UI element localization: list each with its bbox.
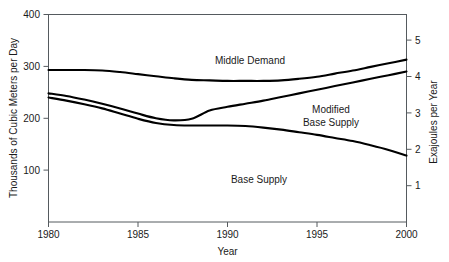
chart-container: 400 300 200 100 5 4 3 2 1 [0, 0, 449, 262]
x-axis-tick-labels: 1980 1985 1990 1995 2000 [37, 229, 418, 240]
supply-demand-line-chart: 400 300 200 100 5 4 3 2 1 [0, 0, 449, 262]
x-tick-label-1995: 1995 [306, 229, 329, 240]
right-tick-label-5: 5 [415, 35, 421, 46]
x-tick-label-2000: 2000 [395, 229, 418, 240]
series-label-middle-demand: Middle Demand [215, 55, 285, 66]
left-tick-label-100: 100 [23, 165, 40, 176]
right-tick-label-3: 3 [415, 108, 421, 119]
left-tick-label-300: 300 [23, 61, 40, 72]
x-axis-title: Year [217, 246, 238, 257]
series-label-modified-line2: Base Supply [303, 117, 359, 128]
series-label-modified-line1: Modified [312, 104, 350, 115]
left-axis-title: Thousands of Cubic Meters per Day [8, 38, 19, 198]
x-tick-label-1985: 1985 [127, 229, 150, 240]
left-tick-label-200: 200 [23, 113, 40, 124]
left-axis-tick-labels: 400 300 200 100 [23, 9, 40, 176]
left-tick-label-400: 400 [23, 9, 40, 20]
x-tick-label-1990: 1990 [216, 229, 239, 240]
series-label-base-supply: Base Supply [231, 174, 287, 185]
series-curves [49, 60, 407, 156]
right-tick-label-2: 2 [415, 144, 421, 155]
right-axis-ticks [407, 40, 412, 186]
left-axis-ticks [44, 15, 49, 171]
right-tick-label-4: 4 [415, 71, 421, 82]
x-tick-label-1980: 1980 [37, 229, 60, 240]
x-axis-ticks [49, 222, 407, 227]
right-axis-title: Exajoules per Year [428, 80, 439, 164]
right-tick-label-1: 1 [415, 180, 421, 191]
curve-modified-base-supply [49, 72, 407, 121]
right-axis-tick-labels: 5 4 3 2 1 [415, 35, 421, 192]
